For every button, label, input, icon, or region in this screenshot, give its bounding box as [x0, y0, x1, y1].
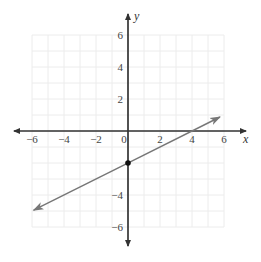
y-intercept-point — [125, 160, 131, 166]
x-tick-label: 4 — [189, 133, 195, 145]
coordinate-plane: −6−4−20246642−4−6 x y — [0, 0, 261, 262]
y-tick-label: 2 — [118, 93, 124, 105]
x-tick-label: −6 — [26, 133, 38, 145]
x-axis-label: x — [242, 132, 249, 146]
y-tick-label: 4 — [118, 61, 124, 73]
line-segment-right — [127, 117, 220, 164]
x-tick-label: 0 — [121, 133, 127, 145]
y-tick-label: −6 — [111, 221, 123, 233]
x-tick-label: −4 — [58, 133, 70, 145]
x-tick-label: 6 — [221, 133, 227, 145]
y-axis-label: y — [133, 9, 140, 23]
plotted-points — [125, 160, 131, 166]
y-tick-label: −4 — [111, 189, 123, 201]
x-tick-label: 2 — [157, 133, 163, 145]
x-tick-label: −2 — [90, 133, 102, 145]
y-tick-label: 6 — [118, 29, 124, 41]
